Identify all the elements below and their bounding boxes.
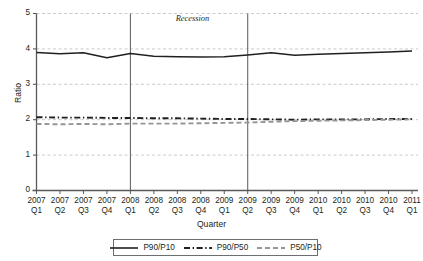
x-tick-year: 2009 — [283, 196, 307, 206]
x-tick-label-1: 2007Q2 — [48, 196, 72, 216]
x-tick-quarter: Q1 — [212, 206, 236, 216]
x-tick-year: 2007 — [95, 196, 119, 206]
x-tick-year: 2007 — [48, 196, 72, 206]
x-tick-label-15: 2010Q4 — [377, 196, 401, 216]
x-tick-year: 2010 — [377, 196, 401, 206]
x-tick-quarter: Q2 — [236, 206, 260, 216]
x-tick-year: 2008 — [165, 196, 189, 206]
legend-swatch-dash-dot-icon — [183, 244, 213, 252]
x-tick-year: 2009 — [259, 196, 283, 206]
x-tick-year: 2007 — [71, 196, 95, 206]
x-tick-year: 2008 — [118, 196, 142, 206]
x-tick-quarter: Q1 — [25, 206, 49, 216]
x-tick-quarter: Q3 — [165, 206, 189, 216]
legend-swatch-dashed-icon — [256, 244, 286, 252]
legend-item-p90-p10: P90/P10 — [105, 243, 178, 252]
x-tick-quarter: Q1 — [400, 206, 423, 216]
gridlines — [37, 14, 419, 191]
x-tick-label-3: 2007Q4 — [95, 196, 119, 216]
x-tick-label-6: 2008Q3 — [165, 196, 189, 216]
y-tick-label-1: 1 — [14, 151, 30, 159]
legend-label: P90/P10 — [143, 243, 174, 252]
data-series — [37, 51, 413, 124]
recession-annotation-label: Recession — [137, 14, 248, 23]
x-tick-label-9: 2009Q2 — [236, 196, 260, 216]
x-tick-year: 2008 — [142, 196, 166, 206]
y-axis-title: Ratio — [13, 63, 23, 123]
x-tick-quarter: Q4 — [189, 206, 213, 216]
axis-lines — [33, 14, 419, 191]
legend-item-p50-p10: P50/P10 — [252, 243, 325, 252]
x-tick-year: 2010 — [306, 196, 330, 206]
y-tick-label-0: 0 — [14, 186, 30, 194]
recession-band-lines — [130, 14, 247, 191]
x-tick-quarter: Q3 — [259, 206, 283, 216]
x-tick-year: 2009 — [236, 196, 260, 206]
ratio-line-chart: 543210 2007Q12007Q22007Q32007Q42008Q1200… — [0, 0, 423, 261]
x-tick-year: 2007 — [25, 196, 49, 206]
x-tick-label-12: 2010Q1 — [306, 196, 330, 216]
x-tick-quarter: Q2 — [330, 206, 354, 216]
x-tick-quarter: Q2 — [48, 206, 72, 216]
x-tick-quarter: Q1 — [306, 206, 330, 216]
legend-label: P50/P10 — [290, 243, 321, 252]
x-tick-year: 2010 — [353, 196, 377, 206]
x-tick-label-14: 2010Q3 — [353, 196, 377, 216]
x-tick-year: 2008 — [189, 196, 213, 206]
x-tick-label-11: 2009Q4 — [283, 196, 307, 216]
x-tick-label-8: 2009Q1 — [212, 196, 236, 216]
x-tick-quarter: Q4 — [377, 206, 401, 216]
y-tick-label-5: 5 — [14, 9, 30, 17]
x-tick-quarter: Q3 — [353, 206, 377, 216]
x-tick-label-10: 2009Q3 — [259, 196, 283, 216]
x-tick-label-4: 2008Q1 — [118, 196, 142, 216]
x-axis-title: Quarter — [0, 219, 423, 229]
legend-item-p90-p50: P90/P50 — [179, 243, 252, 252]
x-tick-quarter: Q2 — [142, 206, 166, 216]
x-tick-label-2: 2007Q3 — [71, 196, 95, 216]
x-tick-year: 2011 — [400, 196, 423, 206]
x-tick-quarter: Q1 — [118, 206, 142, 216]
x-tick-quarter: Q3 — [71, 206, 95, 216]
y-tick-label-4: 4 — [14, 45, 30, 53]
x-tick-quarter: Q4 — [283, 206, 307, 216]
x-tick-label-5: 2008Q2 — [142, 196, 166, 216]
x-tick-label-7: 2008Q4 — [189, 196, 213, 216]
series-line-p90-p10 — [37, 51, 413, 58]
x-tick-label-16: 2011Q1 — [400, 196, 423, 216]
x-tick-year: 2010 — [330, 196, 354, 206]
x-tick-label-0: 2007Q1 — [25, 196, 49, 216]
chart-legend: P90/P10P90/P50P50/P10 — [113, 239, 318, 256]
x-tick-quarter: Q4 — [95, 206, 119, 216]
x-tick-year: 2009 — [212, 196, 236, 206]
legend-label: P90/P50 — [217, 243, 248, 252]
legend-swatch-solid-icon — [109, 244, 139, 252]
x-tick-label-13: 2010Q2 — [330, 196, 354, 216]
